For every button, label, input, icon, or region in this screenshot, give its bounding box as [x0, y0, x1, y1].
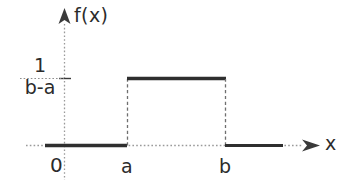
y-tick-label-height: 1 b-a — [17, 58, 63, 96]
origin-label: 0 — [50, 155, 63, 175]
y-axis-arrowhead — [59, 8, 71, 24]
fraction-numerator: 1 — [17, 58, 63, 75]
y-axis-label: f(x) — [74, 6, 108, 25]
uniform-distribution-figure: f(x) x 0 a b 1 b-a — [0, 0, 349, 184]
x-tick-label-b: b — [219, 157, 231, 176]
fraction-denominator: b-a — [17, 75, 63, 96]
x-axis-arrowhead — [302, 140, 320, 152]
x-tick-label-a: a — [121, 157, 133, 176]
x-axis-label: x — [325, 134, 336, 153]
